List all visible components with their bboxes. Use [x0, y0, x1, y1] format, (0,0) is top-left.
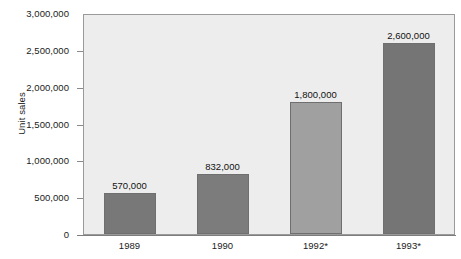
- plot-area: [83, 14, 455, 235]
- x-axis-tick-label: 1989: [85, 240, 175, 251]
- bar-value-label: 570,000: [85, 180, 175, 191]
- x-axis-tick-label: 1993*: [364, 240, 454, 251]
- x-axis-line: [77, 235, 456, 236]
- y-axis-tick-label: 2,000,000: [26, 83, 69, 93]
- bar-1990: [197, 174, 249, 234]
- y-axis-tick-label: 500,000: [34, 193, 69, 203]
- y-axis-tick-label: 2,500,000: [26, 46, 69, 56]
- bar-value-label: 832,000: [178, 161, 268, 172]
- bar-value-label: 1,800,000: [271, 89, 361, 100]
- bar-1989: [104, 193, 156, 234]
- x-axis-tick-label: 1990: [178, 240, 268, 251]
- bar-1993-est: [383, 43, 435, 234]
- x-axis-tick-label: 1992*: [271, 240, 361, 251]
- bar-value-label: 2,600,000: [364, 30, 454, 41]
- y-axis-tick-label: 1,500,000: [26, 120, 69, 130]
- bar-1992-est: [290, 102, 342, 234]
- y-axis-tick-label: 3,000,000: [26, 9, 69, 19]
- y-axis-tick-label: 1,000,000: [26, 156, 69, 166]
- y-axis-tick-group: 0500,0001,000,0001,500,0002,000,0002,500…: [0, 0, 76, 259]
- y-axis-tick-label: 0: [64, 230, 69, 240]
- bar-chart-figure: Unit sales 0500,0001,000,0001,500,0002,0…: [0, 0, 461, 259]
